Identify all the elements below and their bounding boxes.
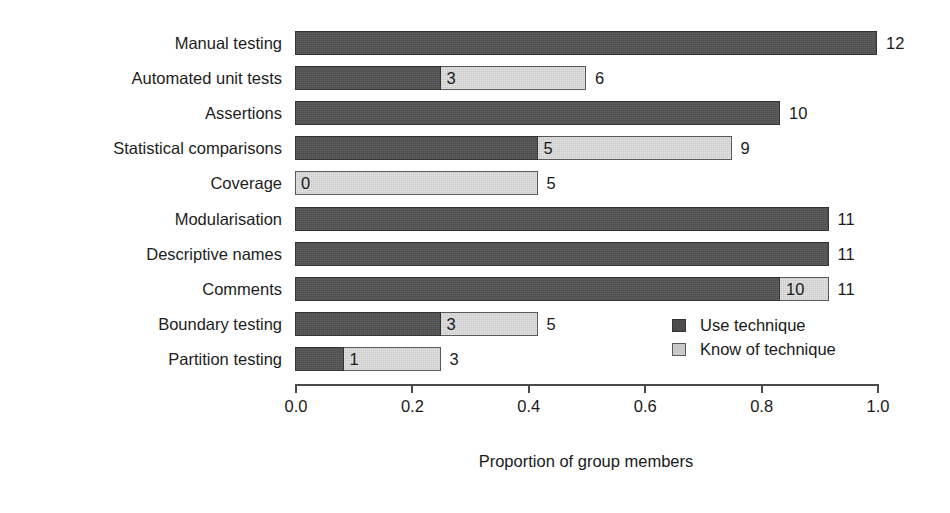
bar-value-label-total: 5 (547, 316, 556, 333)
x-axis-tick (411, 384, 413, 393)
bar-row: 1011 (295, 277, 877, 301)
legend-swatch-know-of-technique (672, 343, 686, 356)
category-label: Assertions (20, 105, 282, 122)
category-label: Coverage (20, 175, 282, 192)
bar-chart: Manual testingAutomated unit testsAssert… (0, 0, 950, 513)
category-label: Descriptive names (20, 246, 282, 263)
bar-row: 36 (295, 66, 877, 90)
x-axis-tick-label: 0.6 (634, 398, 657, 415)
category-label: Automated unit tests (20, 70, 282, 87)
bar-value-label-total: 6 (595, 70, 604, 87)
bar-value-label-total: 3 (450, 351, 459, 368)
category-label: Statistical comparisons (20, 140, 282, 157)
bar-value-label-use: 5 (544, 140, 553, 157)
bar-segment-use-technique (295, 347, 344, 371)
bar-row: 12 (295, 31, 877, 55)
bar-segment-use-technique (295, 101, 780, 125)
x-axis-tick-label: 0.0 (285, 398, 308, 415)
bar-value-label-use: 1 (350, 351, 359, 368)
bar-value-label-use: 3 (447, 316, 456, 333)
category-label: Modularisation (20, 211, 282, 228)
x-axis-tick-label: 0.8 (750, 398, 773, 415)
x-axis-title: Proportion of group members (295, 452, 877, 471)
bar-value-label-total: 10 (789, 105, 807, 122)
x-axis-line (295, 384, 879, 386)
x-axis-tick (528, 384, 530, 393)
bar-segment-use-technique (295, 242, 829, 266)
legend-label-use-technique: Use technique (700, 317, 806, 334)
x-axis-tick (761, 384, 763, 393)
bar-segment-use-technique (295, 312, 441, 336)
bar-row: 11 (295, 207, 877, 231)
x-axis-tick (877, 384, 879, 393)
category-label: Comments (20, 281, 282, 298)
x-axis-tick-label: 0.2 (401, 398, 424, 415)
bar-row: 59 (295, 136, 877, 160)
bar-segment-use-technique (295, 277, 780, 301)
x-axis-tick-label: 0.4 (517, 398, 540, 415)
category-label: Boundary testing (20, 316, 282, 333)
x-axis-tick (295, 384, 297, 393)
bar-value-label-total: 5 (547, 175, 556, 192)
legend-item-know-of-technique: Know of technique (672, 337, 836, 361)
bar-segment-use-technique (295, 207, 829, 231)
bar-value-label-use: 0 (301, 175, 310, 192)
bar-row: 10 (295, 101, 877, 125)
bar-value-label-total: 12 (886, 35, 904, 52)
category-label: Partition testing (20, 351, 282, 368)
legend-label-know-of-technique: Know of technique (700, 341, 836, 358)
category-label: Manual testing (20, 35, 282, 52)
bar-value-label-total: 11 (838, 210, 855, 227)
bar-value-label-total: 11 (838, 280, 855, 297)
bar-segment-know-of-technique (295, 171, 538, 195)
bar-value-label-total: 9 (741, 140, 750, 157)
bar-segment-use-technique (295, 66, 441, 90)
legend-swatch-use-technique (672, 319, 686, 332)
legend-item-use-technique: Use technique (672, 313, 836, 337)
bar-value-label-use: 10 (786, 280, 804, 297)
bar-segment-use-technique (295, 136, 538, 160)
x-axis-tick-label: 1.0 (867, 398, 890, 415)
x-axis-tick (644, 384, 646, 393)
bar-row: 11 (295, 242, 877, 266)
legend: Use technique Know of technique (672, 313, 836, 361)
bar-row: 05 (295, 171, 877, 195)
bar-segment-use-technique (295, 31, 877, 55)
bar-value-label-use: 3 (447, 70, 456, 87)
bar-value-label-total: 11 (838, 245, 855, 262)
